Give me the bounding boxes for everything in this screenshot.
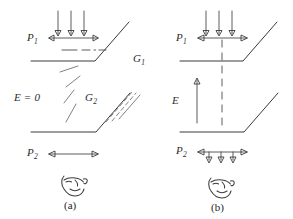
face-profile-icon [209,178,235,198]
panel-a-caption: (a) [64,200,76,211]
panel-b-label-field: E [172,95,179,106]
panel-a-label-g2: G2 [85,92,97,106]
panel-b-bottom-load-arrows [206,152,236,163]
hatch-line [60,66,78,72]
face-profile-icon [62,176,88,196]
g2-dash-line [106,92,132,122]
panel-a-gap-hatch [60,66,80,122]
panel-a-label-p2: P2 [27,147,38,161]
face-nose [75,180,78,186]
hatch-line [64,90,74,103]
g2-solid-line [119,95,140,119]
panel-a-top-load-arrows [55,11,87,36]
panel-a-p2-span-arrow [49,151,99,157]
panel-b-label-p2: P2 [176,145,187,159]
panel-b-upper-boundary [180,22,277,61]
face-eye [66,181,72,182]
hatch-line [66,104,76,122]
face-mouth [70,189,80,191]
panel-a-upper-boundary [31,22,129,61]
panel-a-label-field: E = 0 [14,92,40,103]
panel-b-p2-span-arrow [198,149,248,155]
panel-b-top-load-arrows [203,11,235,36]
panel-b-label-p1: P1 [176,32,187,46]
figure-root: P1 G1 E = 0 G2 P2 (a) P1 E P2 (b) [0,0,293,219]
panel-b-p1-span-arrow [198,35,248,41]
face-ear [231,181,235,186]
panel-a-lower-boundary [31,93,130,132]
panel-b-drawing [180,11,278,198]
face-nose [222,182,225,188]
hatch-line [66,76,80,87]
g2-dash-line [112,93,136,121]
face-ear [84,179,88,184]
panel-a-label-p1: P1 [27,32,38,46]
face-mouth [217,191,227,193]
panel-b-caption: (b) [211,202,224,213]
figure-drawing [0,0,293,219]
face-eye [213,183,219,184]
panel-b-field-arrow [194,78,200,123]
panel-a-p1-span-arrow [49,35,99,41]
panel-a-g2-hatch [106,92,140,122]
panel-a-label-g1: G1 [133,53,145,67]
panel-b-lower-boundary [180,93,278,132]
